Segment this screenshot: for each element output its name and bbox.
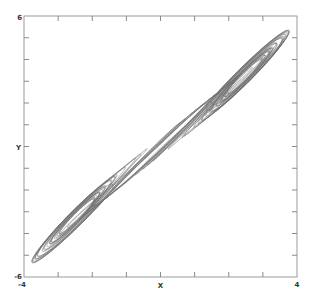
y-axis-label: Y xyxy=(15,144,22,152)
y-tick-label-max: 6 xyxy=(17,14,22,22)
attractor-trajectory xyxy=(32,30,290,263)
x-tick-label-max: 4 xyxy=(295,281,300,289)
y-tick-label-min: -6 xyxy=(14,273,22,281)
chart: -4 4 -6 6 X Y xyxy=(0,0,315,302)
x-tick-label-min: -4 xyxy=(18,281,26,289)
x-axis-label: X xyxy=(158,282,164,290)
